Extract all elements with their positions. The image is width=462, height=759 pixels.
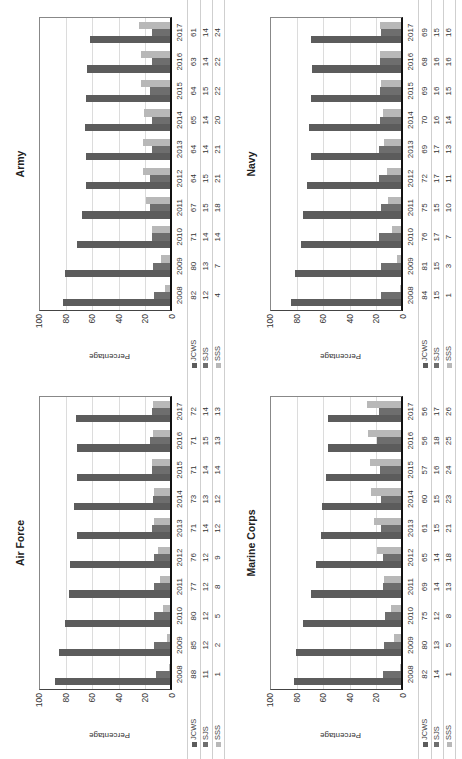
y-tick-label: 40	[114, 693, 124, 719]
table-cell: 16	[432, 105, 441, 134]
legend-swatch-icon	[192, 363, 197, 368]
table-cell: 81	[420, 251, 429, 280]
table-cell: 1	[213, 660, 222, 689]
bar-jcws	[86, 153, 170, 160]
year-label: 2014	[175, 484, 184, 513]
legend-item-jcws: JCWS	[420, 340, 429, 368]
bar-sjs	[379, 233, 401, 240]
bar-jcws	[294, 678, 401, 685]
table-cell: 57	[420, 455, 429, 484]
bar-jcws	[311, 95, 401, 102]
chart-title: Marine Corps	[245, 396, 257, 690]
table-cell: 71	[189, 222, 198, 251]
bar-sjs	[381, 29, 401, 36]
table-cell: 14	[201, 397, 210, 426]
legend-swatch-icon	[447, 363, 452, 368]
bar-group-2010	[271, 601, 401, 630]
year-label: 2017	[406, 397, 415, 426]
bar-sjs	[384, 642, 401, 649]
bar-group-2010	[40, 601, 170, 630]
table-cell: 80	[189, 251, 198, 280]
year-label: 2011	[406, 193, 415, 222]
chart-army: ArmyPercentage10080604020020082009201020…	[0, 0, 231, 380]
table-cell: 25	[444, 426, 453, 455]
bar-sjs	[152, 29, 170, 36]
year-label: 2016	[175, 426, 184, 455]
table-row-sss: SSS125891212141313	[212, 380, 225, 759]
y-tick-label: 20	[140, 314, 150, 340]
bar-group-2013	[271, 135, 401, 164]
table-row-sjs: SJS11121212121413141514	[200, 380, 213, 759]
table-cell: 80	[420, 630, 429, 659]
table-cell: 15	[432, 18, 441, 47]
y-tick-label: 100	[34, 314, 44, 340]
chart-title: Navy	[245, 17, 257, 311]
bar-sss	[169, 664, 170, 671]
bar-sss	[392, 226, 401, 233]
bar-sjs	[379, 146, 401, 153]
table-cell: 22	[213, 76, 222, 105]
legend-item-sjs: SJS	[432, 347, 441, 368]
year-label: 2014	[406, 484, 415, 513]
bar-sss	[368, 430, 401, 437]
bar-group-2010	[271, 222, 401, 251]
bar-jcws	[86, 95, 170, 102]
bar-jcws	[90, 36, 170, 43]
bar-jcws	[311, 590, 401, 597]
bar-sss	[400, 664, 401, 671]
bar-sjs	[383, 583, 401, 590]
table-cell: 12	[213, 484, 222, 513]
table-cell: 3	[444, 251, 453, 280]
bar-sss	[154, 518, 170, 525]
table-cell: 15	[432, 251, 441, 280]
bar-jcws	[321, 532, 401, 539]
bar-jcws	[311, 36, 401, 43]
bar-sss	[152, 226, 170, 233]
legend-swatch-icon	[423, 363, 428, 368]
year-label: 2014	[406, 105, 415, 134]
bar-sjs	[383, 671, 401, 678]
bar-sjs	[152, 408, 170, 415]
table-cell: 16	[444, 47, 453, 76]
bar-jcws	[307, 182, 401, 189]
legend-swatch-icon	[203, 742, 208, 747]
table-cell: 13	[213, 426, 222, 455]
bar-sss	[391, 605, 401, 612]
legend-item-jcws: JCWS	[189, 719, 198, 747]
table-cell: 10	[444, 193, 453, 222]
year-label: 2017	[175, 397, 184, 426]
bar-sss	[160, 576, 170, 583]
bar-sjs	[385, 612, 401, 619]
table-cell: 9	[213, 543, 222, 572]
chart-marine-corps: Marine CorpsPercentage100806040200200820…	[231, 380, 462, 759]
bar-sjs	[380, 58, 401, 65]
quadrant-navy: NavyPercentage10080604020020082009201020…	[231, 0, 462, 380]
bar-sss	[141, 80, 170, 87]
bar-sss	[383, 109, 401, 116]
table-cell: 14	[432, 660, 441, 689]
bar-sss	[388, 197, 401, 204]
bar-jcws	[328, 444, 401, 451]
table-cell: 13	[213, 397, 222, 426]
table-cell: 14	[432, 572, 441, 601]
bar-sjs	[154, 292, 170, 299]
table-cell: 8	[444, 601, 453, 630]
y-axis-label: Percentage	[311, 731, 371, 740]
table-cell: 11	[444, 164, 453, 193]
y-tick-label: 80	[61, 693, 71, 719]
year-label: 2014	[175, 105, 184, 134]
bar-group-2017	[271, 397, 401, 426]
year-label: 2013	[175, 135, 184, 164]
table-cell: 69	[420, 572, 429, 601]
bar-sjs	[381, 525, 401, 532]
y-tick-label: 100	[265, 693, 275, 719]
table-cell: 20	[213, 105, 222, 134]
table-cell: 71	[189, 514, 198, 543]
year-label: 2009	[175, 251, 184, 280]
bar-sjs	[381, 263, 401, 270]
year-label: 2016	[175, 47, 184, 76]
legend-label: SJS	[432, 347, 441, 361]
bar-group-2009	[40, 631, 170, 660]
table-cell: 17	[432, 135, 441, 164]
bar-sjs	[379, 175, 401, 182]
